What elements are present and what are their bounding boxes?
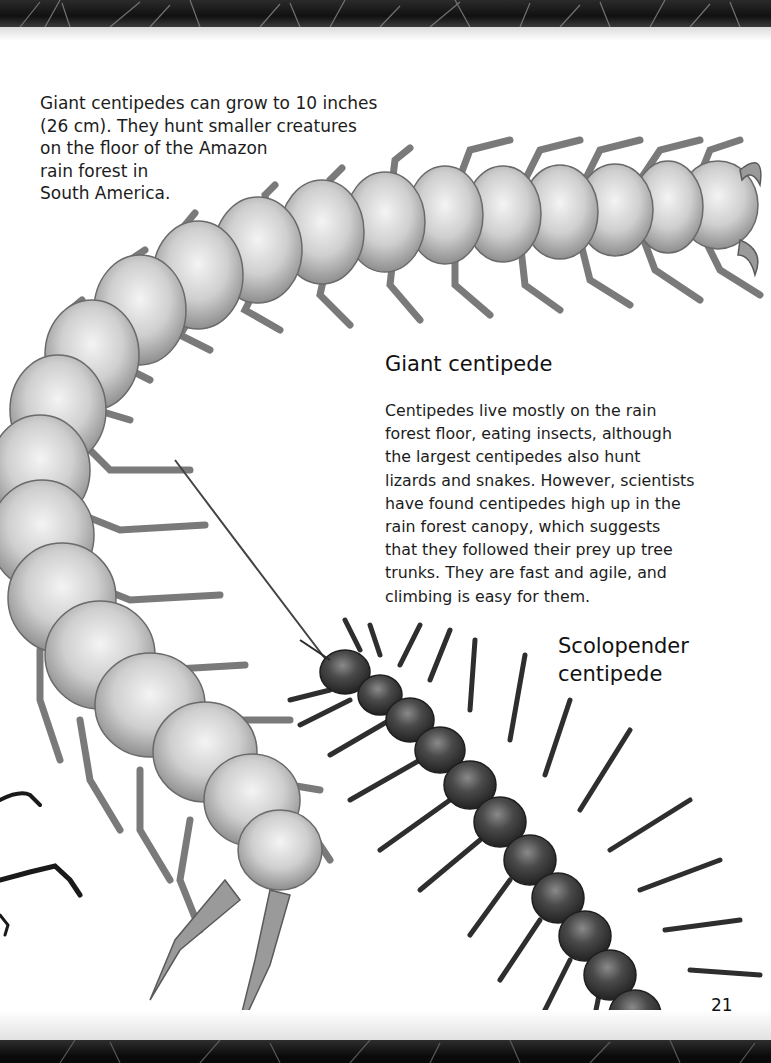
page-number: 21 [711,995,733,1015]
bottom-band-fade [0,1010,771,1040]
scolopender-body [320,650,661,1040]
scolopender-centipede-heading: Scolopender centipede [558,632,689,688]
scolopender-antenna [300,640,330,660]
giant-centipede-heading: Giant centipede [385,350,553,378]
giant-antenna [175,460,330,665]
bottom-foliage-band [0,1040,771,1063]
intro-caption: Giant centipedes can grow to 10 inches (… [40,92,380,205]
beetle-legs-partial [0,793,80,935]
foliage-pattern-icon [0,1040,771,1063]
giant-centipede-body-text: Centipedes live mostly on the rain fores… [385,399,771,608]
